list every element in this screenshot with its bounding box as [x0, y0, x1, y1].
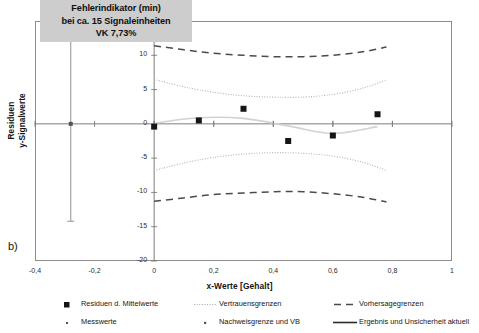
y-axis-tick-label: 10: [121, 50, 147, 57]
x-axis-tick-label: -0,2: [80, 267, 110, 274]
legend-symbol-dashed-line: [333, 300, 357, 309]
x-axis-tick-label: 0,4: [258, 267, 288, 274]
chart-legend: Residuen d. MittelwerteVertrauensgrenzen…: [0, 296, 479, 333]
x-axis-title: x-Werte [Gehalt]: [0, 281, 479, 291]
y-axis-title-line2: y-Signalwerte: [17, 74, 28, 168]
legend-item-label: Nachweisgrenze und VB: [219, 317, 300, 326]
legend-item-label: Messwerte: [81, 317, 117, 326]
legend-symbol-filled-square: [55, 300, 79, 309]
legend-symbol-solid-line: [333, 318, 357, 327]
callout-line-2: bei ca. 15 Signaleinheiten: [61, 15, 170, 27]
prediction-band-lower: [154, 192, 386, 203]
callout-line-1: Fehlerindikator (min): [71, 2, 160, 14]
errorbar-center-marker: [69, 122, 73, 126]
y-axis-title: Residuen y-Signalwerte: [6, 74, 27, 168]
legend-item-label: Vertrauensgrenzen: [219, 299, 281, 308]
residual-mean-marker: [151, 124, 157, 130]
panel-label: b): [8, 240, 18, 252]
residual-mean-marker: [330, 133, 336, 139]
x-axis-tick-label: 0,2: [199, 267, 229, 274]
residual-mean-marker: [196, 117, 202, 123]
y-axis-tick-label: -15: [121, 222, 147, 229]
x-axis-tick-label: 0: [139, 267, 169, 274]
x-axis-tick-label: 0,6: [318, 267, 348, 274]
x-axis-tick-label: -0,4: [20, 267, 50, 274]
y-axis-tick-label: 0: [121, 119, 147, 126]
residual-mean-marker: [241, 106, 247, 112]
legend-item-label: Vorhersagegrenzen: [359, 299, 424, 308]
annotation-callout: Fehlerindikator (min) bei ca. 15 Signale…: [40, 0, 192, 42]
y-axis-tick-label: -20: [121, 256, 147, 263]
residual-mean-marker: [285, 138, 291, 144]
y-axis-tick-label: -5: [121, 153, 147, 160]
result-uncertainty-line: [154, 117, 377, 133]
legend-item-label: Ergebnis und Unsicherheit aktuell: [359, 317, 469, 326]
y-axis-title-line1: Residuen: [6, 74, 17, 168]
residual-mean-marker: [375, 111, 381, 117]
legend-symbol-small-dot: [55, 318, 79, 327]
legend-item-label: Residuen d. Mittelwerte: [81, 299, 158, 308]
confidence-band-upper: [154, 79, 386, 97]
y-axis-tick-label: -10: [121, 187, 147, 194]
legend-symbol-dotted-line: [193, 300, 217, 309]
x-axis-tick-label: 1: [437, 267, 467, 274]
y-axis-tick-label: 5: [121, 85, 147, 92]
x-axis-tick-label: 0,8: [377, 267, 407, 274]
chart-root: 151050-5-10-15-20 -0,4-0,200,20,40,60,81…: [0, 0, 479, 333]
legend-symbol-plus-dot: [193, 318, 217, 327]
prediction-band-upper: [154, 46, 386, 57]
callout-line-3: VK 7,73%: [96, 27, 137, 39]
confidence-band-lower: [154, 153, 386, 171]
